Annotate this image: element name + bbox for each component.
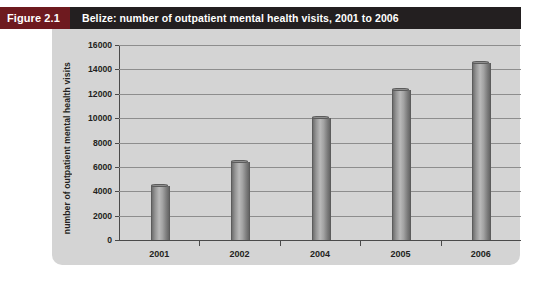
gridline xyxy=(119,45,521,46)
x-axis-tick xyxy=(441,241,442,246)
y-axis-title: number of outpatient mental health visit… xyxy=(58,40,76,256)
bar xyxy=(231,162,250,240)
bar-top-cap xyxy=(472,61,489,64)
bar-top-cap xyxy=(151,184,168,187)
x-axis-tick-label: 2001 xyxy=(149,249,169,259)
y-axis-tick xyxy=(115,167,119,168)
y-axis-tick-label: 12000 xyxy=(88,89,112,99)
x-axis-tick-label: 2006 xyxy=(471,249,491,259)
x-axis-tick xyxy=(280,241,281,246)
gridline xyxy=(119,69,521,70)
bar xyxy=(151,186,170,240)
bar-top-cap xyxy=(392,88,409,91)
y-axis-tick xyxy=(115,45,119,46)
x-axis-tick-label: 2002 xyxy=(230,249,250,259)
x-axis-tick xyxy=(360,241,361,246)
figure-container: Figure 2.1 Belize: number of outpatient … xyxy=(0,0,549,292)
x-axis-tick-label: 2004 xyxy=(310,249,330,259)
y-axis-tick-label: 16000 xyxy=(88,40,112,50)
gridline xyxy=(119,94,521,95)
y-axis-tick-label: 14000 xyxy=(88,64,112,74)
plot-area: 0200040006000800010000120001400016000 20… xyxy=(119,45,521,240)
y-axis-tick-label: 2000 xyxy=(93,211,112,221)
x-axis-tick xyxy=(199,241,200,246)
bar-top-cap xyxy=(231,160,248,163)
y-axis-tick xyxy=(115,94,119,95)
y-axis-tick xyxy=(115,240,119,241)
y-axis-tick xyxy=(115,216,119,217)
y-axis-tick-label: 10000 xyxy=(88,113,112,123)
y-axis-tick xyxy=(115,118,119,119)
y-axis-tick xyxy=(115,191,119,192)
y-axis-tick-label: 6000 xyxy=(93,162,112,172)
bar xyxy=(392,90,411,240)
y-axis-tick-label: 0 xyxy=(107,235,112,245)
y-axis-tick-label: 8000 xyxy=(93,138,112,148)
bar-top-cap xyxy=(312,116,329,119)
y-axis-tick xyxy=(115,69,119,70)
figure-number-label: Figure 2.1 xyxy=(0,7,70,29)
y-axis-tick-label: 4000 xyxy=(93,186,112,196)
gridline xyxy=(119,240,521,241)
y-axis-tick xyxy=(115,143,119,144)
bar xyxy=(312,118,331,240)
x-axis-tick-label: 2005 xyxy=(390,249,410,259)
figure-title: Belize: number of outpatient mental heal… xyxy=(70,7,521,29)
figure-title-bar: Figure 2.1 Belize: number of outpatient … xyxy=(0,7,521,29)
bar xyxy=(472,63,491,240)
y-axis-title-label: number of outpatient mental health visit… xyxy=(62,62,72,234)
